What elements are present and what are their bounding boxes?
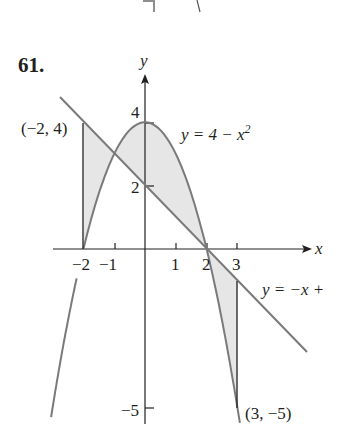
x-tick-label: 3 [232, 255, 241, 274]
x-tick-label: 1 [171, 255, 180, 274]
problem-number: 61. [18, 53, 44, 77]
parabola-label: y = 4 − x2 [179, 122, 251, 144]
y-tick-label: 4 [131, 103, 140, 122]
y-tick-label: 2 [131, 178, 140, 197]
point-label-right: (3, −5) [245, 404, 291, 423]
x-tick-label: 2 [202, 255, 211, 274]
parabola-label-main: y = 4 − x [179, 125, 245, 144]
figure-61: 61. y x −2 −1 1 2 3 4 2 −5 (−2, 4) (3, −… [0, 0, 343, 424]
x-tick-label: −1 [99, 255, 117, 274]
x-axis-label: x [314, 239, 323, 258]
y-tick-label: −5 [121, 401, 139, 420]
labels: 61. y x −2 −1 1 2 3 4 2 −5 (−2, 4) (3, −… [18, 51, 324, 423]
y-axis-label: y [138, 51, 148, 70]
point-label-left: (−2, 4) [21, 119, 67, 138]
parabola-label-exponent: 2 [245, 122, 251, 136]
previous-figure-fragment [143, 0, 200, 12]
line-label: y = −x + [260, 280, 324, 299]
parabola-curve-left-branch [51, 278, 77, 417]
x-tick-label: −2 [72, 255, 90, 274]
